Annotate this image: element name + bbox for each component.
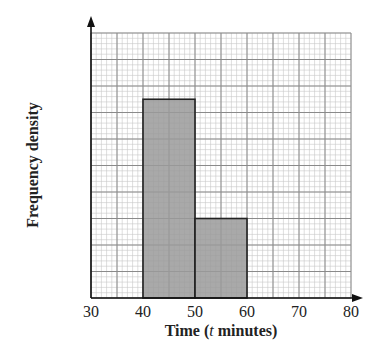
x-tick-label: 60 bbox=[239, 303, 255, 320]
histogram-bar bbox=[195, 219, 247, 299]
histogram-chart: 304050607080 Time (t minutes) Frequency … bbox=[0, 0, 381, 362]
y-axis-label: Frequency density bbox=[24, 102, 42, 227]
x-tick-label: 50 bbox=[187, 303, 203, 320]
x-tick-label: 40 bbox=[135, 303, 151, 320]
x-tick-label: 30 bbox=[83, 303, 99, 320]
x-tick-labels: 304050607080 bbox=[83, 303, 359, 320]
x-tick-label: 70 bbox=[291, 303, 307, 320]
x-axis-arrow-icon bbox=[352, 294, 363, 302]
x-axis-label: Time (t minutes) bbox=[165, 322, 278, 340]
histogram-bar bbox=[143, 99, 195, 298]
x-tick-label: 80 bbox=[343, 303, 359, 320]
y-axis-arrow-icon bbox=[87, 16, 95, 27]
